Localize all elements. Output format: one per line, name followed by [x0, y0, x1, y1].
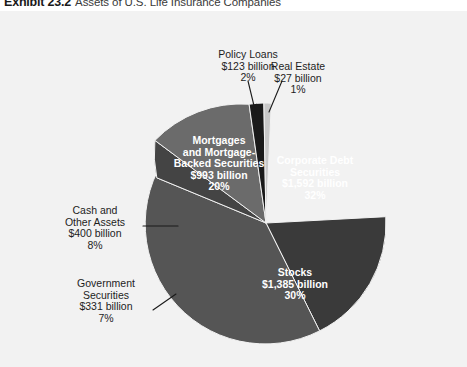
exhibit-title-line: Exhibit 23.2Assets of U.S. Life Insuranc… — [4, 0, 281, 10]
label-government-securities: Government Securities $331 billion 7% — [56, 278, 156, 324]
label-cash-other-assets-value: $400 billion — [46, 228, 144, 240]
label-government-securities-name1: Government — [56, 278, 156, 290]
label-mortgages: Mortgages and Mortgage- Backed Securitie… — [158, 135, 280, 193]
exhibit-number-label: Exhibit 23.2 — [4, 0, 71, 9]
label-stocks-percent: 30% — [240, 290, 350, 302]
page-title: Assets of U.S. Life Insurance Companies — [75, 0, 281, 8]
label-stocks: Stocks $1,385 billion 30% — [240, 267, 350, 302]
label-government-securities-value: $331 billion — [56, 301, 156, 313]
label-stocks-name: Stocks — [240, 267, 350, 279]
label-cash-other-assets-percent: 8% — [46, 240, 144, 252]
exhibit-header: Exhibit 23.2Assets of U.S. Life Insuranc… — [0, 0, 467, 11]
label-real-estate: Real Estate $27 billion 1% — [252, 61, 344, 96]
label-real-estate-name: Real Estate — [252, 61, 344, 73]
chart-panel: Policy Loans $123 billion 2% Real Estate… — [0, 11, 467, 367]
label-cash-other-assets: Cash and Other Assets $400 billion 8% — [46, 205, 144, 251]
label-government-securities-percent: 7% — [56, 313, 156, 325]
label-real-estate-percent: 1% — [252, 84, 344, 96]
label-mortgages-name3: Backed Securities — [158, 158, 280, 170]
label-policy-loans-name: Policy Loans — [196, 49, 300, 61]
label-mortgages-percent: 20% — [158, 181, 280, 193]
label-mortgages-name1: Mortgages — [158, 135, 280, 147]
leader-line-government-securities — [153, 294, 176, 310]
label-cash-other-assets-name1: Cash and — [46, 205, 144, 217]
